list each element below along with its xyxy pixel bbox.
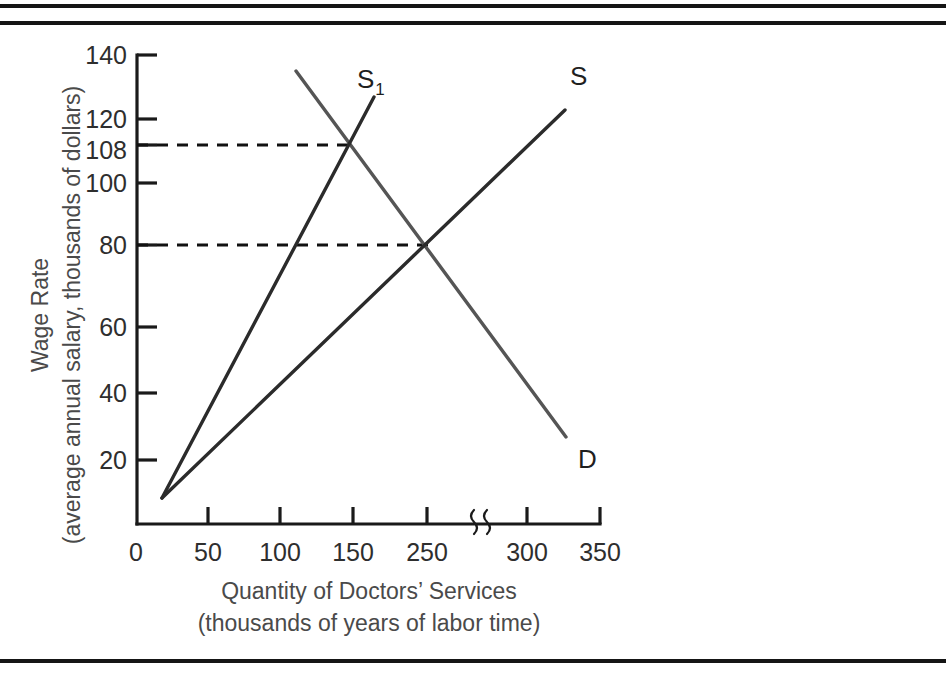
x-axis-title: Quantity of Doctors’ Services (thousands…	[198, 578, 541, 636]
supply-curve-S-label: S	[570, 61, 587, 91]
x-axis-title-line1: Quantity of Doctors’ Services	[221, 578, 517, 604]
y-tick-labels: 140 120 108 100 80 60 40 20	[85, 41, 127, 474]
demand-curve-D	[296, 71, 566, 437]
curve-labels-group: S1 S D	[357, 61, 597, 474]
y-axis-label-108: 108	[85, 136, 127, 164]
x-axis-label-150: 150	[332, 538, 374, 566]
y-axis-label-60: 60	[99, 313, 127, 341]
x-axis-label-50: 50	[194, 538, 222, 566]
x-axis-label-100: 100	[259, 538, 301, 566]
y-axis-label-140: 140	[85, 41, 127, 69]
y-axis-label-40: 40	[99, 379, 127, 407]
y-axis-title-line2: (average annual salary, thousands of dol…	[59, 86, 85, 545]
x-axis-label-250: 250	[406, 538, 448, 566]
chart-svg: 140 120 108 100 80 60 40 20	[0, 25, 946, 659]
supply-curve-S	[162, 110, 565, 498]
x-axis-label-0: 0	[129, 538, 143, 566]
y-axis-title: Wage Rate (average annual salary, thousa…	[27, 86, 85, 545]
x-axis-label-350: 350	[579, 538, 621, 566]
y-tick-marks	[137, 55, 157, 460]
frame-rule-top-outer	[0, 4, 946, 8]
figure-page: 140 120 108 100 80 60 40 20	[0, 0, 946, 677]
y-axis-label-120: 120	[85, 105, 127, 133]
x-axis-title-line2: (thousands of years of labor time)	[198, 610, 541, 636]
guide-lines-group	[137, 145, 428, 245]
x-axis-break-icon	[471, 510, 490, 534]
supply-curve-S1-label: S1	[357, 64, 385, 99]
y-axis-label-20: 20	[99, 446, 127, 474]
y-axis-label-100: 100	[85, 169, 127, 197]
x-tick-marks	[208, 507, 600, 524]
x-tick-labels: 0 50 100 150 250 300 350	[129, 538, 621, 566]
demand-curve-D-label: D	[578, 444, 597, 474]
y-axis-title-line1: Wage Rate	[27, 258, 53, 372]
chart-plot-area: 140 120 108 100 80 60 40 20	[0, 25, 946, 659]
y-axis-label-80: 80	[99, 231, 127, 259]
supply-curve-S1	[162, 97, 374, 498]
curves-group	[162, 71, 566, 498]
frame-rule-bottom	[0, 659, 946, 663]
x-axis-label-300: 300	[506, 538, 548, 566]
